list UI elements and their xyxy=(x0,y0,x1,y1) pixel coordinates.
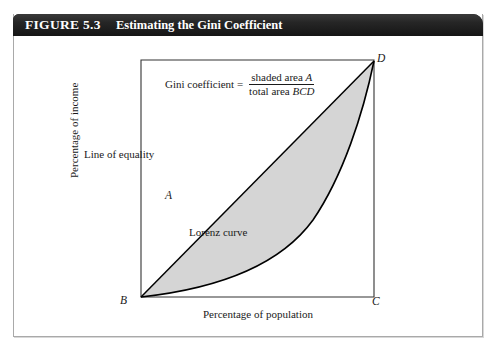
figure-title-bar: FIGURE 5.3 Estimating the Gini Coefficie… xyxy=(13,14,483,36)
formula-numerator-text: shaded area xyxy=(251,71,303,83)
label-point-b: B xyxy=(120,294,127,306)
formula-denominator: total area BCD xyxy=(247,85,316,98)
plot-area: Gini coefficient = shaded area A total a… xyxy=(13,36,483,337)
formula-denominator-italic: BCD xyxy=(292,85,314,97)
label-point-c: C xyxy=(372,295,380,307)
formula-fraction: shaded area A total area BCD xyxy=(247,71,316,98)
formula-lhs: Gini coefficient = xyxy=(165,78,243,90)
figure-number-label: FIGURE 5.3 xyxy=(25,17,101,33)
y-axis-title: Percentage of income xyxy=(68,83,80,178)
label-point-d: D xyxy=(377,52,385,64)
x-axis-title: Percentage of population xyxy=(203,308,313,320)
gini-formula: Gini coefficient = shaded area A total a… xyxy=(165,71,316,98)
label-line-of-equality: Line of equality xyxy=(84,148,154,160)
label-lorenz-curve: Lorenz curve xyxy=(189,226,247,238)
figure-title: Estimating the Gini Coefficient xyxy=(116,18,282,33)
formula-numerator-italic: A xyxy=(306,71,313,83)
formula-denominator-text: total area xyxy=(249,85,290,97)
label-area-a: A xyxy=(165,189,172,201)
formula-numerator: shaded area A xyxy=(249,71,314,85)
figure-container: FIGURE 5.3 Estimating the Gini Coefficie… xyxy=(0,0,497,355)
